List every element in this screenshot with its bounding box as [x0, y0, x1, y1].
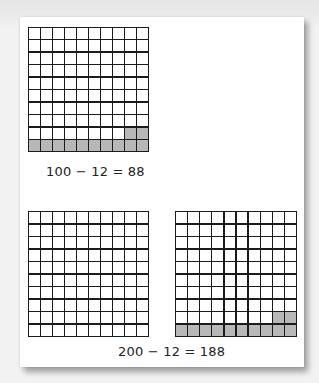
grid-cell — [188, 250, 199, 261]
grid-cell — [29, 325, 40, 336]
grid-cell — [113, 115, 124, 126]
grid-cell — [77, 325, 88, 336]
grid-cell — [41, 250, 52, 261]
grid-cell — [225, 212, 236, 223]
grid-cell — [41, 287, 52, 298]
grid-cell — [249, 325, 260, 336]
grid-cell — [225, 300, 236, 311]
grid-cell — [249, 300, 260, 311]
grid-cell — [237, 237, 248, 248]
grid-cell — [41, 225, 52, 236]
grid-cell — [89, 325, 100, 336]
grid-cell — [29, 237, 40, 248]
grid-cell — [53, 237, 64, 248]
equation-bottom: 200 − 12 = 188 — [118, 344, 225, 359]
grid-cell — [65, 115, 76, 126]
grid-cell — [101, 28, 112, 39]
grid-cell — [77, 237, 88, 248]
grid-cell — [176, 237, 187, 248]
grid-cell — [137, 300, 148, 311]
grid-cell — [41, 325, 52, 336]
grid-cell — [285, 250, 296, 261]
grid-cell — [285, 225, 296, 236]
grid-cell — [113, 237, 124, 248]
grid-cell — [89, 312, 100, 323]
grid-cell — [249, 212, 260, 223]
grid-cell — [249, 250, 260, 261]
grid-cell — [53, 287, 64, 298]
grid-cell — [29, 115, 40, 126]
grid-cell — [237, 287, 248, 298]
grid-cell — [125, 212, 136, 223]
grid-cell — [77, 262, 88, 273]
grid-cell — [29, 65, 40, 76]
grid-cell — [65, 128, 76, 139]
figure-card: 100 − 12 = 88 200 − 12 = 188 — [20, 17, 304, 367]
grid-cell — [125, 40, 136, 51]
grid-cell — [200, 275, 211, 286]
grid-cell — [261, 212, 272, 223]
grid-cell — [137, 212, 148, 223]
grid-cell — [137, 140, 148, 151]
grid-cell — [53, 65, 64, 76]
grid-cell — [273, 312, 284, 323]
grid-cell — [200, 250, 211, 261]
grid-cell — [65, 90, 76, 101]
grid-cell — [41, 237, 52, 248]
grid-cell — [41, 103, 52, 114]
grid-cell — [77, 140, 88, 151]
grid-cell — [101, 262, 112, 273]
grid-cell — [212, 287, 223, 298]
grid-cell — [237, 225, 248, 236]
grid-cell — [237, 262, 248, 273]
grid-cell — [89, 262, 100, 273]
grid-cell — [113, 312, 124, 323]
grid-cell — [113, 40, 124, 51]
grid-cell — [200, 225, 211, 236]
grid-cell — [77, 65, 88, 76]
grid-cell — [77, 40, 88, 51]
figure-stage: 100 − 12 = 88 200 − 12 = 188 — [0, 0, 319, 383]
grid-cell — [200, 237, 211, 248]
grid-cell — [285, 312, 296, 323]
grid-cell — [53, 90, 64, 101]
grid-cell — [101, 250, 112, 261]
grid-cell — [137, 28, 148, 39]
grid-cell — [285, 287, 296, 298]
grid-cell — [65, 140, 76, 151]
grid-cell — [125, 312, 136, 323]
grid-cell — [137, 312, 148, 323]
grid-cell — [41, 53, 52, 64]
grid-cell — [176, 262, 187, 273]
grid-cell — [65, 300, 76, 311]
grid-cell — [89, 287, 100, 298]
grid-cell — [53, 53, 64, 64]
hundred-grid-bottom-left — [28, 211, 149, 337]
grid-cell — [89, 53, 100, 64]
grid-cell — [249, 287, 260, 298]
grid-cell — [113, 325, 124, 336]
grid-cell — [200, 312, 211, 323]
grid-cell — [125, 90, 136, 101]
grid-cell — [237, 250, 248, 261]
grid-cell — [101, 78, 112, 89]
grid-cell — [65, 78, 76, 89]
grid-cell — [113, 78, 124, 89]
grid-cell — [273, 262, 284, 273]
grid-cell — [53, 212, 64, 223]
grid-cell — [285, 300, 296, 311]
grid-cell — [53, 28, 64, 39]
grid-cell — [53, 40, 64, 51]
grid-cell — [65, 312, 76, 323]
grid-cell — [53, 300, 64, 311]
grid-cell — [125, 78, 136, 89]
grid-cell — [212, 262, 223, 273]
grid-cell — [113, 53, 124, 64]
grid-cell — [89, 128, 100, 139]
grid-cell — [125, 53, 136, 64]
grid-cell — [101, 40, 112, 51]
grid-cell — [41, 90, 52, 101]
grid-cell — [273, 250, 284, 261]
grid-cell — [53, 250, 64, 261]
grid-cell — [77, 90, 88, 101]
